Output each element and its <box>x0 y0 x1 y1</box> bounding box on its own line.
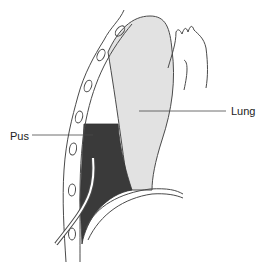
rib-icon <box>95 48 106 62</box>
rib-icon <box>69 142 78 155</box>
mediastinum-lines <box>168 26 208 90</box>
rib-icon <box>68 184 76 197</box>
rib-icon <box>83 79 94 93</box>
lung-label: Lung <box>231 106 255 117</box>
rib-icon <box>74 110 84 123</box>
pus-label: Pus <box>10 131 29 142</box>
empyema-diagram <box>0 0 270 266</box>
